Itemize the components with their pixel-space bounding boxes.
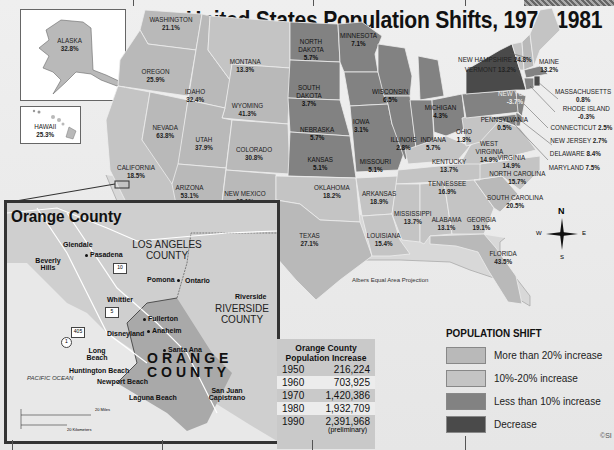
- scale-miles: 20 Miles: [95, 407, 110, 412]
- ocean-label: PACIFIC OCEAN: [27, 375, 73, 381]
- city-beverly-hills: Beverly Hills: [35, 257, 61, 271]
- label-pennsylvania: PENNSYLVANIA0.5%: [481, 116, 528, 132]
- label-delaware: DELAWARE 8.4%: [550, 150, 601, 158]
- label-washington: WASHINGTON21.1%: [149, 16, 192, 32]
- legend-item: Less than 10% increase: [446, 391, 602, 411]
- label-oregon: OREGON25.9%: [142, 68, 170, 84]
- label-maine: MAINE13.2%: [539, 58, 559, 74]
- state-rhode-island: [534, 76, 540, 86]
- label-vermont: VERMONT 13.2%: [465, 66, 516, 74]
- orange-county-label: ORANGE COUNTY: [147, 351, 217, 379]
- city-pasadena: Pasadena: [83, 251, 123, 258]
- label-arizona: ARIZONA53.1%: [176, 184, 204, 200]
- city-huntington-beach: Huntington Beach: [69, 367, 129, 374]
- highway-405-shield: 405: [71, 327, 85, 338]
- projection-note: Albers Equal Area Projection: [352, 277, 428, 283]
- label-new-jersey: NEW JERSEY 2.7%: [550, 137, 607, 145]
- city-fullerton: Fullerton: [141, 315, 178, 322]
- label-kentucky: KENTUCKY13.7%: [432, 158, 466, 174]
- compass-n: N: [558, 206, 565, 216]
- compass-e: E: [582, 230, 586, 236]
- city-glendale: Glendale: [63, 241, 93, 248]
- trim-mark: [162, 440, 163, 450]
- highway-5-shield: 5: [105, 307, 119, 318]
- orange-county-inset: Orange County LOS ANGELES COUNTY RIVERSI…: [4, 200, 280, 444]
- state-connecticut: [524, 78, 534, 90]
- label-north-dakota: NORTH DAKOTA5.7%: [298, 38, 325, 62]
- label-rhode-island: RHODE ISLAND-0.3%: [563, 105, 610, 121]
- label-utah: UTAH37.9%: [195, 136, 213, 152]
- legend-item: Decrease: [446, 414, 602, 434]
- label-arkansas: ARKANSAS18.9%: [362, 190, 396, 206]
- state-utah: [178, 100, 232, 168]
- label-new-york: NEW YORK-3.7%: [498, 90, 532, 106]
- orange-county-title: Orange County: [11, 207, 122, 227]
- label-massachusetts: MASSACHUSETTS0.8%: [555, 88, 611, 104]
- legend-swatch: [446, 416, 486, 433]
- city-long-beach: Long Beach: [85, 347, 109, 361]
- compass-s: S: [560, 254, 564, 260]
- legend-title: POPULATION SHIFT: [446, 327, 587, 339]
- label-west-virginia: WEST VIRGINIA14.9%: [476, 140, 503, 164]
- table-row: 19801,932,709: [277, 402, 375, 415]
- copyright: ©SI: [600, 432, 612, 439]
- label-minnesota: MINNESOTA7.1%: [340, 32, 377, 48]
- label-idaho: IDAHO32.4%: [185, 88, 205, 104]
- trim-mark: [312, 440, 313, 450]
- label-texas: TEXAS27.1%: [299, 232, 320, 248]
- state-michigan: [418, 56, 444, 100]
- label-mississippi: MISSISSIPPI13.7%: [394, 210, 431, 226]
- city-santa-ana: Santa Ana: [161, 346, 202, 353]
- label-indiana: INDIANA5.7%: [420, 136, 446, 152]
- label-ohio: OHIO1.3%: [456, 128, 472, 144]
- legend: POPULATION SHIFT More than 20% increase …: [446, 327, 602, 437]
- label-south-carolina: SOUTH CAROLINA20.5%: [487, 194, 543, 210]
- legend-swatch: [446, 370, 486, 387]
- label-missouri: MISSOURI5.1%: [360, 158, 391, 174]
- legend-item: More than 20% increase: [446, 345, 602, 365]
- highway-10-shield: 10: [113, 263, 127, 274]
- city-pomona: Pomona: [147, 276, 182, 283]
- label-wisconsin: WISCONSIN6.5%: [372, 88, 408, 104]
- label-connecticut: CONNECTICUT 2.5%: [550, 124, 612, 132]
- label-michigan: MICHIGAN4.3%: [425, 104, 457, 120]
- label-kansas: KANSAS5.1%: [307, 156, 333, 172]
- trim-mark: [465, 436, 466, 450]
- label-oklahoma: OKLAHOMA18.2%: [314, 184, 350, 200]
- highway-1-shield: 1: [61, 337, 72, 348]
- legend-item: 10%-20% increase: [446, 368, 602, 388]
- label-nevada: NEVADA63.8%: [152, 124, 177, 140]
- label-colorado: COLORADO30.8%: [236, 146, 272, 162]
- city-riverside: Riverside: [235, 293, 267, 300]
- label-louisiana: LOUISIANA15.4%: [367, 232, 401, 248]
- city-laguna-beach: Laguna Beach: [129, 394, 177, 401]
- riverside-county-label: RIVERSIDE COUNTY: [207, 303, 277, 325]
- la-county-label: LOS ANGELES COUNTY: [127, 239, 207, 261]
- table-row: 1960703,925: [277, 376, 375, 389]
- label-illinois: ILLINOIS2.8%: [390, 136, 416, 152]
- label-california: CALIFORNIA18.5%: [117, 164, 155, 180]
- compass-w: W: [536, 230, 542, 236]
- population-table-title: Orange County Population Increase: [277, 339, 375, 363]
- population-table: Orange County Population Increase 195021…: [277, 339, 375, 449]
- label-wyoming: WYOMING41.3%: [232, 102, 264, 118]
- city-whittier: Whittier: [107, 296, 133, 303]
- trim-mark: [12, 440, 13, 450]
- scale-km: 20 Kilometers: [67, 427, 91, 432]
- city-newport-beach: Newport Beach: [97, 378, 148, 385]
- city-san-juan-capistrano: San Juan Capistrano: [207, 387, 247, 401]
- city-ontario: Ontario: [185, 277, 210, 284]
- label-iowa: IOWA3.1%: [353, 118, 370, 134]
- label-nebraska: NEBRASKA5.7%: [300, 126, 334, 142]
- legend-swatch: [446, 393, 486, 410]
- legend-swatch: [446, 347, 486, 364]
- city-disneyland: Disneyland: [107, 330, 144, 337]
- label-new-hampshire: NEW HAMPSHIRE 24.8%: [458, 56, 532, 64]
- label-maryland: MARYLAND 7.5%: [549, 164, 600, 172]
- label-tennessee: TENNESSEE16.9%: [428, 180, 466, 196]
- table-row: 1950216,224: [277, 363, 375, 376]
- compass-rose: N W E S: [542, 206, 582, 266]
- label-south-dakota: SOUTH DAKOTA3.7%: [296, 84, 323, 108]
- label-georgia: GEORGIA19.1%: [467, 216, 496, 232]
- label-montana: MONTANA13.3%: [230, 58, 261, 74]
